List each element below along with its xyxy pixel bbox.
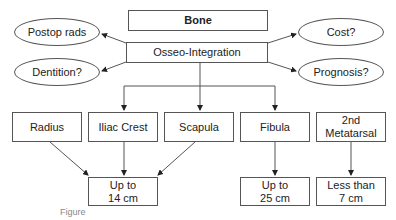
- length-line1: Less than: [327, 179, 375, 192]
- consideration-dentition: Dentition?: [14, 58, 100, 86]
- donor-site-iliac-crest: Iliac Crest: [88, 112, 158, 142]
- length-line2: 7 cm: [339, 192, 363, 205]
- donor-site-fibula: Fibula: [240, 112, 310, 142]
- donor-site-2nd-metatarsal: 2nd Metatarsal: [316, 112, 386, 142]
- consideration-postop-rads: Postop rads: [14, 18, 100, 46]
- donor-site-radius: Radius: [12, 112, 82, 142]
- length-up-to-14cm: Up to 14 cm: [88, 177, 158, 206]
- length-line1: Up to: [262, 179, 288, 192]
- length-line1: Up to: [110, 179, 136, 192]
- root-node-bone: Bone: [128, 10, 268, 31]
- length-up-to-25cm: Up to 25 cm: [240, 177, 310, 206]
- donor-site-scapula: Scapula: [164, 112, 234, 142]
- length-line2: 14 cm: [108, 192, 138, 205]
- consideration-prognosis: Prognosis?: [298, 58, 384, 86]
- length-line2: 25 cm: [260, 192, 290, 205]
- figure-caption: Figure: [60, 207, 86, 217]
- flowchart: Bone Osseo-Integration Postop rads Denti…: [0, 0, 396, 220]
- length-less-than-7cm: Less than 7 cm: [316, 177, 386, 206]
- hub-node-osseo-integration: Osseo-Integration: [126, 42, 268, 63]
- consideration-cost: Cost?: [298, 18, 384, 46]
